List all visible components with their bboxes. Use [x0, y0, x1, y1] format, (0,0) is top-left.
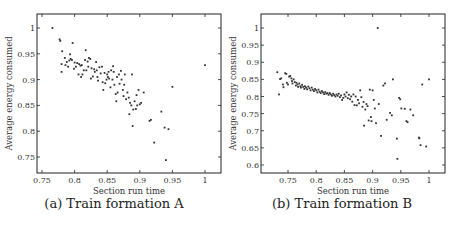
data-point	[104, 72, 106, 74]
data-point	[419, 137, 421, 139]
data-point	[108, 71, 110, 73]
data-point	[83, 69, 85, 71]
data-point	[59, 38, 61, 40]
data-point	[131, 74, 133, 76]
data-point	[348, 94, 350, 96]
data-point	[309, 87, 311, 89]
x-axis-label: Section run time	[93, 186, 165, 196]
data-point	[124, 74, 126, 76]
data-point	[85, 69, 87, 71]
data-point	[112, 79, 114, 81]
data-point	[375, 122, 377, 124]
y-tick-label: 0.7	[246, 127, 259, 136]
data-point	[104, 82, 106, 84]
y-tick-label: 0.85	[241, 75, 259, 84]
data-point	[64, 57, 66, 59]
data-point	[344, 94, 346, 96]
data-point	[102, 89, 104, 91]
y-tick-label: 0.8	[22, 127, 35, 136]
data-point	[140, 102, 142, 104]
data-point	[380, 135, 382, 137]
data-point	[135, 108, 137, 110]
data-point	[136, 94, 138, 96]
data-point	[420, 144, 422, 146]
data-point	[168, 128, 170, 130]
data-point	[81, 64, 83, 66]
data-point	[399, 98, 401, 100]
data-point	[318, 89, 320, 91]
data-point	[378, 103, 380, 105]
y-tick-label: 0.65	[241, 144, 259, 153]
data-point	[78, 63, 80, 65]
data-point	[396, 138, 398, 140]
x-tick-label: 0.85	[335, 176, 353, 185]
data-point	[294, 81, 296, 83]
data-point	[328, 94, 330, 96]
data-point	[113, 84, 115, 86]
data-point	[101, 66, 103, 68]
data-point	[285, 73, 287, 75]
data-point	[129, 102, 131, 104]
data-point	[407, 121, 409, 123]
data-point	[316, 91, 318, 93]
scatter-plot-b: 0.750.80.850.90.9510.60.650.70.750.80.85…	[228, 0, 457, 225]
data-point	[121, 79, 123, 81]
data-point	[404, 108, 406, 110]
data-point	[119, 83, 121, 85]
data-point	[363, 125, 365, 127]
data-point	[338, 93, 340, 95]
data-point	[301, 84, 303, 86]
y-tick-label: 0.9	[22, 76, 35, 85]
data-point	[143, 92, 145, 94]
axes-frame	[261, 14, 445, 173]
data-point	[350, 96, 352, 98]
data-point	[100, 73, 102, 75]
data-point	[339, 96, 341, 98]
data-point	[374, 108, 376, 110]
data-point	[106, 79, 108, 81]
data-point	[349, 98, 351, 100]
x-tick-label: 0.75	[33, 176, 51, 185]
data-point	[76, 62, 78, 64]
data-point	[61, 63, 63, 65]
data-point	[369, 89, 371, 91]
data-point	[132, 109, 134, 111]
data-point	[102, 81, 104, 83]
data-point	[291, 80, 293, 82]
data-point	[59, 40, 61, 42]
y-tick-label: 0.75	[17, 153, 35, 162]
data-point	[204, 64, 206, 66]
data-points	[52, 27, 206, 161]
data-point	[72, 42, 74, 44]
data-point	[160, 111, 162, 113]
data-point	[392, 78, 394, 80]
data-point	[421, 84, 423, 86]
data-point	[386, 119, 388, 121]
x-tick-label: 0.8	[310, 176, 323, 185]
y-tick-label: 0.95	[241, 41, 259, 50]
data-point	[310, 89, 312, 91]
y-tick-label: 0.75	[241, 110, 259, 119]
data-point	[128, 97, 130, 99]
data-point	[298, 83, 300, 85]
data-point	[313, 90, 315, 92]
data-point	[106, 74, 108, 76]
data-point	[165, 159, 167, 161]
x-tick-label: 0.85	[98, 176, 116, 185]
data-point	[80, 76, 82, 78]
caption-b: (b) Train formation B	[228, 196, 456, 211]
data-points	[276, 27, 430, 160]
data-point	[150, 119, 152, 121]
data-point	[92, 76, 94, 78]
data-point	[94, 71, 96, 73]
data-point	[91, 67, 93, 69]
data-point	[293, 78, 295, 80]
data-point	[65, 64, 67, 66]
data-point	[368, 120, 370, 122]
data-point	[164, 127, 166, 129]
data-point	[280, 77, 282, 79]
data-point	[93, 68, 95, 70]
chart-panel-b: 0.750.80.850.90.9510.60.650.70.750.80.85…	[228, 0, 456, 225]
data-point	[95, 61, 97, 63]
data-point	[68, 60, 70, 62]
